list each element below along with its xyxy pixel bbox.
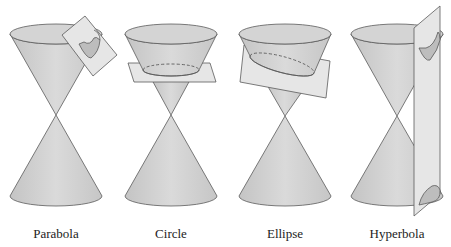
circle-figure — [125, 24, 217, 206]
lower-nappe — [239, 116, 331, 206]
hyperbola-figure — [351, 6, 443, 216]
ellipse-figure — [239, 24, 331, 206]
label-circle: Circle — [116, 226, 226, 242]
upper-rim — [125, 24, 217, 44]
label-parabola: Parabola — [1, 226, 111, 242]
upper-rim — [239, 24, 331, 44]
label-hyperbola: Hyperbola — [342, 226, 451, 242]
lower-nappe — [10, 115, 102, 206]
conic-sections-diagram — [0, 0, 451, 247]
lower-nappe — [125, 115, 217, 206]
parabola-figure — [10, 16, 117, 206]
label-ellipse: Ellipse — [230, 226, 340, 242]
